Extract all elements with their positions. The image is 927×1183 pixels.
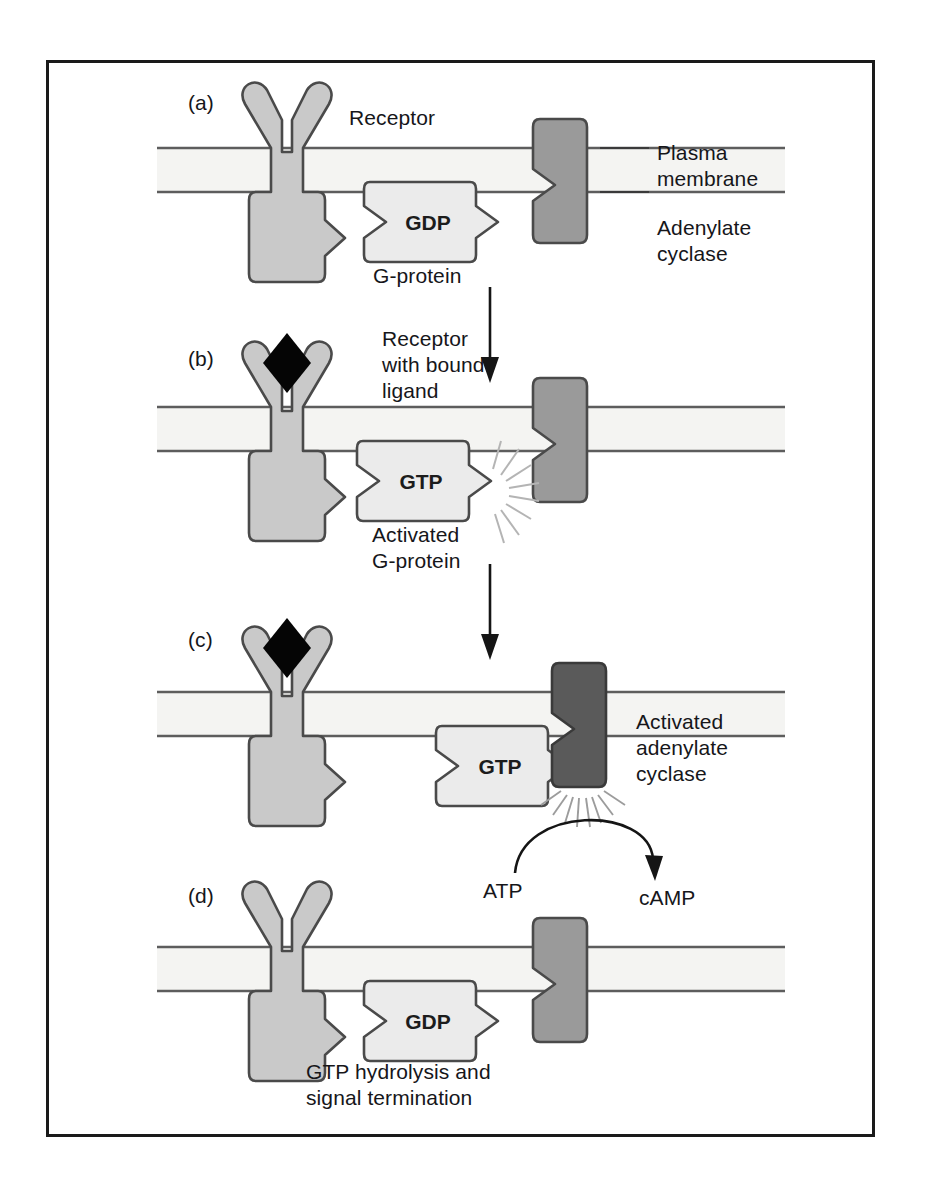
panel-letter-d: (d) <box>188 883 214 909</box>
flow-arrow-b-to-c <box>481 564 499 660</box>
atp-label: ATP <box>483 878 523 904</box>
diagram-stage: GDP <box>49 63 872 1134</box>
nucleotide-label-c: GTP <box>478 755 521 778</box>
figure-border: GDP <box>46 60 875 1137</box>
receptor-with-ligand-label: Receptor with bound ligand <box>382 326 485 404</box>
panel-letter-c: (c) <box>188 627 213 653</box>
g-protein-label: G-protein <box>373 263 461 289</box>
g-protein-c: GTP <box>436 726 570 806</box>
camp-label: cAMP <box>639 885 695 911</box>
termination-label: GTP hydrolysis and signal termination <box>306 1059 491 1111</box>
panel-d-graphics: GDP <box>157 882 785 1081</box>
panel-letter-a: (a) <box>188 90 214 116</box>
panel-letter-b: (b) <box>188 346 214 372</box>
atp-to-camp-arc <box>515 820 663 881</box>
receptor-label: Receptor <box>349 105 435 131</box>
plasma-membrane-label: Plasma membrane <box>657 140 758 192</box>
activated-g-protein-label: Activated G-protein <box>372 522 460 574</box>
g-protein-d: GDP <box>364 981 498 1061</box>
g-protein-b: GTP <box>357 441 491 521</box>
adenylate-cyclase-label: Adenylate cyclase <box>657 215 751 267</box>
g-protein-a: GDP <box>364 182 498 262</box>
nucleotide-label-b: GTP <box>399 470 442 493</box>
plasma-membrane-b <box>157 407 785 451</box>
activated-adenylate-cyclase-label: Activated adenylate cyclase <box>636 709 728 787</box>
nucleotide-label-a: GDP <box>405 211 451 234</box>
nucleotide-label-d: GDP <box>405 1010 451 1033</box>
